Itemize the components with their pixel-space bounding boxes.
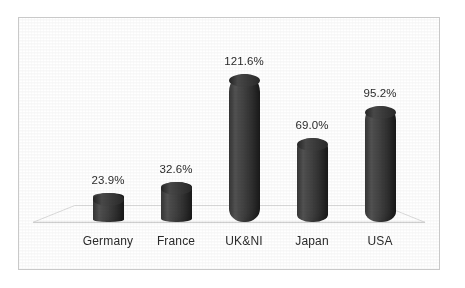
category-label-uk-ni: UK&NI: [225, 234, 262, 248]
bars-container: 23.9%Germany32.6%France121.6%UK&NI69.0%J…: [19, 18, 439, 269]
cylinder-bar[interactable]: [229, 74, 260, 222]
cylinder-bar[interactable]: [161, 182, 192, 222]
bar-value-label: 95.2%: [363, 87, 396, 99]
bar-value-label: 23.9%: [91, 174, 124, 186]
bar-group: 32.6%: [161, 182, 192, 222]
plot-area: 23.9%Germany32.6%France121.6%UK&NI69.0%J…: [19, 18, 439, 269]
category-label-germany: Germany: [83, 234, 133, 248]
chart-frame: 23.9%Germany32.6%France121.6%UK&NI69.0%J…: [18, 17, 440, 270]
bar-value-label: 121.6%: [224, 55, 264, 67]
bar-group: 95.2%: [365, 106, 396, 222]
bar-group: 121.6%: [229, 74, 260, 222]
bar-value-label: 69.0%: [295, 119, 328, 131]
category-label-france: France: [157, 234, 195, 248]
cylinder-bar[interactable]: [93, 193, 124, 222]
cylinder-bar[interactable]: [365, 106, 396, 222]
category-label-usa: USA: [367, 234, 392, 248]
bar-value-label: 32.6%: [159, 163, 192, 175]
bar-group: 23.9%: [93, 193, 124, 222]
cylinder-bar[interactable]: [297, 138, 328, 222]
category-label-japan: Japan: [295, 234, 328, 248]
bar-group: 69.0%: [297, 138, 328, 222]
